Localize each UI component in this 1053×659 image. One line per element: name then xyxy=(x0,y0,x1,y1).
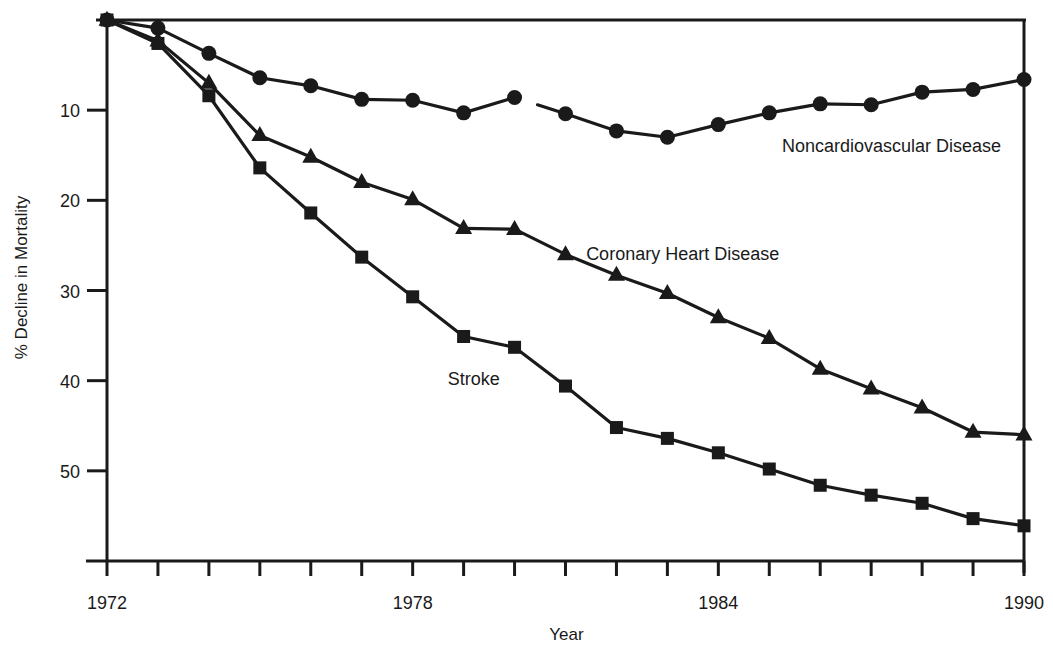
series-line-segment xyxy=(718,113,769,125)
data-point-circle xyxy=(813,96,828,111)
data-point-square xyxy=(151,37,164,50)
series-label-coronary-heart-disease: Coronary Heart Disease xyxy=(586,244,779,264)
series-line-segment xyxy=(616,131,667,137)
y-tick-label: 40 xyxy=(60,372,80,392)
series-line-segment xyxy=(667,293,718,317)
data-point-circle xyxy=(354,92,369,107)
data-point-circle xyxy=(762,105,777,120)
series-line-segment xyxy=(566,114,617,131)
series-line-segment xyxy=(515,229,566,254)
data-point-circle xyxy=(864,97,879,112)
series-line-segment xyxy=(769,469,820,485)
data-point-circle xyxy=(507,90,522,105)
series-coronary-heart-disease xyxy=(99,11,1033,441)
data-point-square xyxy=(763,463,776,476)
data-point-circle xyxy=(405,93,420,108)
data-point-circle xyxy=(303,78,318,93)
series-line-segment xyxy=(973,432,1024,435)
data-point-square xyxy=(101,14,114,27)
series-line-segment xyxy=(820,369,871,389)
series-label-noncardiovascular-disease: Noncardiovascular Disease xyxy=(782,136,1001,156)
y-tick-label: 10 xyxy=(60,101,80,121)
data-point-square xyxy=(661,432,674,445)
data-point-square xyxy=(202,89,215,102)
data-point-square xyxy=(253,161,266,174)
data-point-square xyxy=(508,341,521,354)
data-point-square xyxy=(610,421,623,434)
series-line-segment xyxy=(362,257,413,297)
data-point-square xyxy=(559,380,572,393)
series-line-segment xyxy=(871,92,922,105)
series-line-segment xyxy=(566,386,617,427)
data-point-triangle xyxy=(200,74,217,89)
series-line-segment xyxy=(616,275,667,293)
data-point-square xyxy=(814,479,827,492)
series-line-segment xyxy=(311,157,362,182)
y-tick-label: 30 xyxy=(60,282,80,302)
data-point-triangle xyxy=(506,220,523,235)
mortality-decline-chart: 19721978198419901020304050 Noncardiovasc… xyxy=(0,0,1053,659)
data-point-circle xyxy=(915,85,930,100)
data-point-circle xyxy=(1017,72,1032,87)
series-stroke xyxy=(101,14,1031,533)
x-axis-title: Year xyxy=(549,625,584,644)
series-layer xyxy=(99,11,1033,533)
series-line-segment xyxy=(209,53,260,77)
series-line-segment xyxy=(260,135,311,157)
data-point-circle xyxy=(609,123,624,138)
series-line-segment xyxy=(718,453,769,469)
series-line-segment xyxy=(820,104,871,105)
series-line-segment xyxy=(209,96,260,168)
series-line-segment xyxy=(413,100,464,113)
x-tick-label: 1972 xyxy=(87,593,127,613)
series-line-segment xyxy=(616,428,667,439)
series-line-segment xyxy=(973,80,1024,90)
series-line-segment xyxy=(667,438,718,452)
x-tick-label: 1984 xyxy=(698,593,738,613)
data-point-square xyxy=(712,446,725,459)
data-point-square xyxy=(916,497,929,510)
series-line-segment xyxy=(667,125,718,138)
data-point-circle xyxy=(711,117,726,132)
x-tick-label: 1990 xyxy=(1004,593,1044,613)
series-line-segment xyxy=(464,228,515,229)
series-line-segment xyxy=(820,485,871,495)
data-point-circle xyxy=(558,106,573,121)
data-point-circle xyxy=(660,130,675,145)
series-line-segment xyxy=(515,347,566,386)
data-point-square xyxy=(355,251,368,264)
series-line-segment xyxy=(922,503,973,518)
data-point-circle xyxy=(966,82,981,97)
series-label-stroke: Stroke xyxy=(448,369,500,389)
series-line-segment xyxy=(464,98,515,113)
series-line-segment xyxy=(718,318,769,339)
data-point-square xyxy=(304,206,317,219)
y-tick-label: 20 xyxy=(60,191,80,211)
series-noncardiovascular-disease xyxy=(100,13,1032,145)
series-line-segment xyxy=(158,41,209,83)
series-line-segment xyxy=(871,495,922,503)
data-point-circle xyxy=(252,70,267,85)
series-line-segment xyxy=(871,389,922,408)
data-point-square xyxy=(967,512,980,525)
x-tick-label: 1978 xyxy=(393,593,433,613)
series-line-segment xyxy=(413,297,464,337)
data-point-square xyxy=(406,290,419,303)
series-line-segment xyxy=(973,519,1024,526)
series-line-segment xyxy=(922,408,973,432)
data-point-square xyxy=(865,489,878,502)
series-line-segment xyxy=(362,182,413,199)
labels-layer: Noncardiovascular DiseaseCoronary Heart … xyxy=(448,136,1001,390)
series-line-segment xyxy=(311,213,362,257)
series-line-segment xyxy=(464,336,515,347)
data-point-circle xyxy=(201,46,216,61)
y-tick-label: 50 xyxy=(60,462,80,482)
y-axis-title: % Decline in Mortality xyxy=(12,195,31,359)
data-point-square xyxy=(1018,519,1031,532)
series-line-segment xyxy=(362,99,413,100)
series-line-segment xyxy=(769,104,820,113)
series-line-segment xyxy=(922,89,973,92)
series-line-segment xyxy=(260,78,311,86)
data-point-circle xyxy=(456,105,471,120)
series-line-segment xyxy=(311,86,362,100)
